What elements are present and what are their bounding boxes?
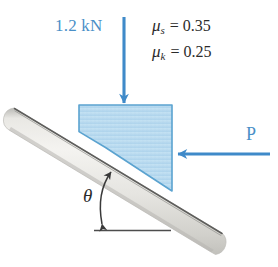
inclined-plane-diagram: 1.2 kN μs = 0.35 μk = 0.25 P θ [0,0,278,267]
mu-kinetic-symbol: μ [152,42,161,61]
mu-static-subscript: s [161,24,166,36]
angle-label: θ [83,186,92,205]
mu-kinetic-subscript: k [161,50,167,62]
weight-label: 1.2 kN [55,17,102,34]
mu-static-symbol: μ [152,16,161,35]
mu-static-value: = 0.35 [170,17,211,34]
mu-static-label: μs = 0.35 [152,17,211,36]
mu-kinetic-value: = 0.25 [170,43,211,60]
mu-kinetic-label: μk = 0.25 [152,43,211,62]
applied-force-label: P [246,125,256,143]
diagram-canvas [0,0,278,267]
